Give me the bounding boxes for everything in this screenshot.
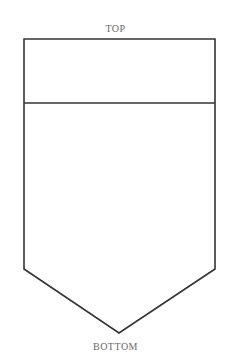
bottom-label: BOTTOM: [0, 341, 231, 352]
pattern-outline: [24, 39, 215, 333]
pocket-pattern-shape: [0, 0, 231, 359]
